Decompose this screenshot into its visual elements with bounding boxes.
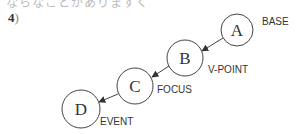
node-a-letter: A xyxy=(231,21,244,40)
node-d-label: EVENT xyxy=(100,116,133,127)
edge-c-to-d xyxy=(99,94,118,102)
node-a: A BASE xyxy=(221,14,289,46)
node-c-letter: C xyxy=(129,77,140,96)
edge-b-to-c xyxy=(152,66,169,77)
edge-a-to-b xyxy=(202,38,223,51)
node-a-label: BASE xyxy=(262,16,289,27)
node-b-letter: B xyxy=(179,49,190,68)
flow-diagram: A BASE B V-POINT C FOCUS D EVENT xyxy=(0,0,299,134)
node-d-letter: D xyxy=(75,100,87,119)
node-b-label: V-POINT xyxy=(208,64,248,75)
node-c-label: FOCUS xyxy=(157,84,192,95)
